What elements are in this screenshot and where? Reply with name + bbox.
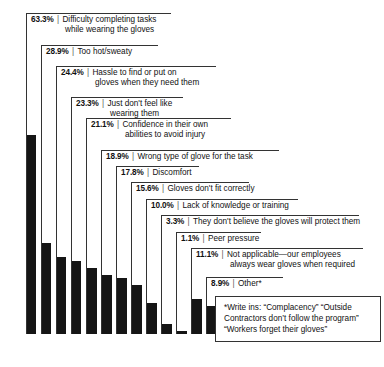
label-percent: 17.8% (121, 168, 144, 177)
label-text: They don't believe the gloves will prote… (193, 217, 360, 226)
label-text: Just don't feel like (107, 99, 172, 108)
label-text: Difficulty completing tasks (62, 15, 156, 24)
label-connector-line (206, 288, 207, 334)
bar (41, 243, 51, 334)
label-percent: 21.1% (91, 120, 114, 129)
label-connector-line (26, 34, 27, 334)
label-text: Too hot/sweaty (77, 47, 132, 56)
write-ins-line-2: Contractors don’t follow the program” (224, 313, 373, 324)
chart-label-row: 17.8% | Discomfort (116, 166, 199, 178)
label-text-line-2: gloves when they need them (61, 78, 216, 88)
bar (147, 303, 157, 334)
label-text: Gloves don't fit correctly (167, 184, 254, 193)
chart-label-row: 28.9% | Too hot/sweaty (41, 45, 158, 57)
label-connector-line (161, 226, 162, 334)
label-percent: 24.4% (61, 68, 84, 77)
label-percent: 10.0% (151, 201, 174, 210)
chart-label-row: 1.1% | Peer pressure (176, 232, 261, 244)
label-percent: 63.3% (31, 15, 54, 24)
label-percent: 11.1% (196, 250, 218, 259)
label-connector-line (191, 269, 192, 334)
bar (117, 278, 127, 334)
chart-label-row: 23.3% | Just don't feel likewearing them (71, 97, 183, 120)
label-connector-line (86, 139, 87, 334)
label-percent: 8.9% (211, 279, 229, 288)
label-percent: 28.9% (46, 47, 69, 56)
label-connector-line (71, 118, 72, 334)
write-ins-line-3: “Workers forget their gloves” (224, 324, 373, 335)
label-text-line-2: always wear gloves when required (196, 260, 363, 270)
bar (26, 135, 36, 334)
bar (132, 285, 142, 334)
label-text: Other* (238, 279, 262, 288)
label-text-line-2: while wearing the gloves (31, 25, 171, 35)
label-text: Not applicable—our employees (227, 250, 341, 259)
chart-label-row: 21.1% | Confidence in their ownabilities… (86, 118, 231, 141)
chart-label-row: 3.3% | They don't believe the gloves wil… (161, 215, 359, 227)
chart-label-row: 11.1% | Not applicable—our employeesalwa… (191, 248, 363, 271)
label-connector-line (131, 193, 132, 334)
chart-label-row: 24.4% | Hassle to find or put ongloves w… (56, 66, 216, 89)
label-percent: 1.1% (181, 234, 199, 243)
label-connector-line (176, 243, 177, 334)
chart-label-row: 63.3% | Difficulty completing taskswhile… (26, 13, 171, 36)
label-separator: | (218, 250, 227, 259)
label-connector-line (146, 210, 147, 334)
label-percent: 23.3% (76, 99, 99, 108)
chart-label-row: 10.0% | Lack of knowledge or training (146, 199, 298, 211)
bar (177, 331, 187, 334)
bar (102, 275, 112, 334)
label-percent: 18.9% (106, 152, 129, 161)
write-ins-note: *Write ins: “Complacency” “Outside Contr… (215, 296, 381, 342)
label-percent: 3.3% (166, 217, 184, 226)
label-text: Lack of knowledge or training (182, 201, 289, 210)
label-text: Wrong type of glove for the task (137, 152, 252, 161)
bar (162, 324, 172, 334)
label-text: Hassle to find or put on (92, 68, 176, 77)
write-ins-line-1: *Write ins: “Complacency” “Outside (224, 302, 373, 313)
staircase-bar-chart: 63.3% | Difficulty completing taskswhile… (0, 0, 384, 367)
label-connector-line (101, 161, 102, 334)
label-connector-line (41, 56, 42, 334)
bar (71, 261, 81, 334)
chart-label-row: 8.9% | Other* (206, 277, 283, 289)
bar (56, 257, 66, 334)
label-text: Discomfort (152, 168, 191, 177)
label-connector-line (56, 87, 57, 334)
label-connector-line (116, 177, 117, 334)
chart-label-row: 15.6% | Gloves don't fit correctly (131, 182, 249, 194)
label-text: Peer pressure (208, 234, 259, 243)
label-separator: | (184, 217, 193, 226)
label-text: Confidence in their own (122, 120, 208, 129)
label-separator: | (229, 279, 238, 288)
label-separator: | (199, 234, 208, 243)
bar (192, 299, 202, 334)
chart-label-row: 18.9% | Wrong type of glove for the task (101, 150, 279, 162)
label-percent: 15.6% (136, 184, 159, 193)
label-text-line-2: abilities to avoid injury (91, 130, 231, 140)
bar (86, 268, 96, 334)
